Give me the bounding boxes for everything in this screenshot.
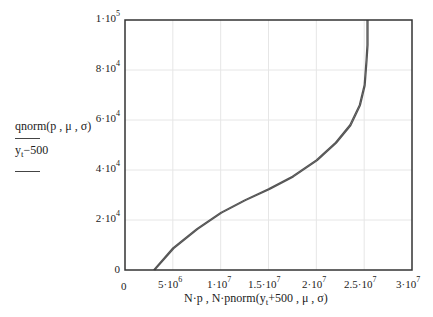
plot-area xyxy=(0,0,433,317)
y-tick-0: 0 xyxy=(115,263,121,275)
legend-line-series-2 xyxy=(15,171,40,172)
x-tick-5e6: 5·106 xyxy=(158,278,182,290)
data-series xyxy=(154,20,368,270)
x-tick-3e7: 3·107 xyxy=(396,278,420,290)
y-tick-100000: 1·105 xyxy=(96,12,120,24)
x-tick-1.5e7: 1.5·107 xyxy=(248,278,280,290)
y-tick-60000: 6·104 xyxy=(96,112,120,124)
x-tick-0: 0 xyxy=(121,280,127,292)
x-axis-label: N·p , N·pnorm(yt+500 , μ , σ) xyxy=(184,291,328,307)
y-axis-label-series-1: qnorm(p , μ , σ) xyxy=(15,119,91,134)
x-tick-2.5e7: 2.5·107 xyxy=(344,278,376,290)
grid-lines xyxy=(125,20,412,270)
x-tick-1e7: 1·107 xyxy=(207,278,231,290)
series-line-2 xyxy=(155,20,368,270)
y-axis-label-series-2: yt−500 xyxy=(15,143,48,159)
x-tick-2e7: 2·107 xyxy=(302,278,326,290)
y-tick-80000: 8·104 xyxy=(96,62,120,74)
y-tick-20000: 2·104 xyxy=(96,212,120,224)
y-tick-40000: 4·104 xyxy=(96,162,120,174)
legend-line-series-1 xyxy=(15,138,40,139)
